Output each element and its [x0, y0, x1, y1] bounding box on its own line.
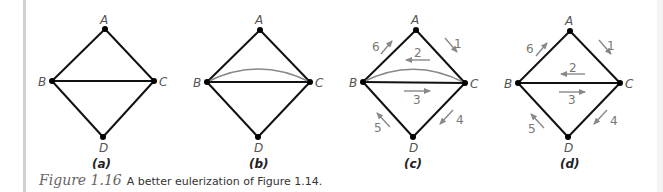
vertex-label-c: C	[159, 75, 168, 89]
vertex-label-a: A	[99, 13, 108, 27]
route-step-1: 1	[454, 37, 462, 51]
panel-c-graph: 1 2 3 4 5 6 A B C D (c)	[349, 13, 479, 171]
route-arrow-6	[536, 43, 547, 56]
figure-number: Figure 1.16	[39, 172, 122, 188]
route-step-5: 5	[374, 121, 382, 135]
figure-graphs: A B C D (a) A B C D (b)	[0, 0, 663, 192]
vertex-label-c: C	[315, 76, 324, 90]
route-arrow-4	[594, 110, 607, 124]
vertex-label-d: D	[254, 141, 263, 155]
added-edge-bc	[363, 69, 465, 83]
route-step-3: 3	[568, 93, 576, 107]
vertex-label-b: B	[38, 75, 46, 89]
panel-b-label: (b)	[249, 157, 269, 171]
vertex-label-c: C	[625, 77, 634, 91]
vertex-b	[49, 78, 55, 84]
vertex-d	[100, 134, 106, 140]
vertex-label-d: D	[409, 141, 418, 155]
route-step-6: 6	[526, 42, 534, 56]
route-step-2: 2	[414, 46, 422, 60]
vertex-label-a: A	[564, 14, 573, 28]
vertex-label-d: D	[564, 141, 573, 155]
vertex-label-b: B	[193, 76, 201, 90]
vertex-label-a: A	[410, 13, 419, 27]
route-step-5: 5	[528, 122, 536, 136]
route-arrow-6	[381, 41, 392, 54]
panel-c-label: (c)	[404, 157, 422, 171]
route-step-4: 4	[610, 114, 618, 128]
route-arrow-4	[440, 110, 453, 124]
panel-a-graph: A B C D (a)	[38, 13, 168, 171]
route-step-6: 6	[372, 40, 380, 54]
added-edge-bc	[207, 69, 310, 82]
route-step-3: 3	[413, 93, 421, 107]
panel-a-label: (a)	[92, 157, 111, 171]
vertex-label-b: B	[504, 77, 512, 91]
panel-d-label: (d)	[560, 157, 580, 171]
figure-caption: Figure 1.16A better eulerization of Figu…	[39, 171, 322, 189]
caption-text: A better eulerization of Figure 1.14.	[127, 175, 323, 188]
vertex-label-b: B	[349, 76, 357, 90]
vertex-label-d: D	[99, 141, 108, 155]
vertex-label-a: A	[254, 13, 263, 27]
route-step-4: 4	[456, 113, 464, 127]
vertex-c	[151, 78, 157, 84]
route-step-1: 1	[607, 39, 615, 53]
panel-b-graph: A B C D (b)	[193, 13, 324, 171]
panel-d-graph: 1 2 3 4 5 6 A B C D (d)	[504, 14, 634, 171]
vertex-label-c: C	[470, 77, 479, 91]
route-step-2: 2	[569, 61, 577, 75]
